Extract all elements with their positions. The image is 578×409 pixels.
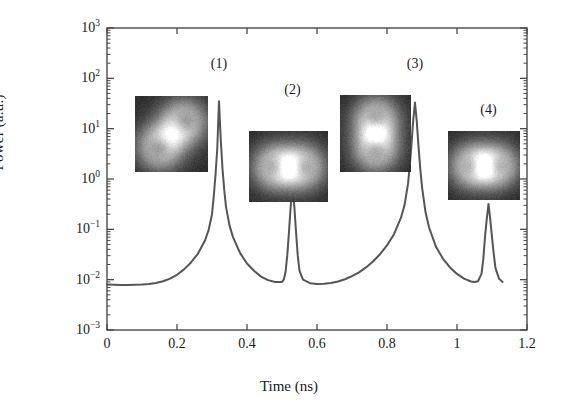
y-tick-label: 100 [42,171,100,187]
mode-image-4 [448,131,520,200]
mode-image-4-canvas [448,131,520,200]
x-tick-label: 0.4 [217,336,277,352]
mode-image-2 [249,131,328,202]
peak-label-2: (2) [268,82,318,98]
peak-label-1: (1) [194,56,244,72]
mode-image-2-canvas [249,131,328,202]
figure-container: Power (a.u.) Time (ns) 10310210110010−11… [0,0,578,409]
mode-image-1-canvas [135,96,208,172]
y-tick-label: 10−2 [42,272,100,288]
y-tick-label: 101 [42,121,100,137]
x-axis-label: Time (ns) [0,378,578,395]
x-tick-label: 0 [77,336,137,352]
x-tick-label: 0.8 [357,336,417,352]
peak-label-3: (3) [390,56,440,72]
x-tick-label: 1 [427,336,487,352]
peak-label-4: (4) [464,102,514,118]
x-tick-label: 0.6 [287,336,347,352]
mode-image-1 [135,96,208,172]
y-tick-label: 103 [42,20,100,36]
mode-image-3-canvas [340,95,411,172]
y-tick-label: 102 [42,70,100,86]
x-tick-label: 1.2 [497,336,557,352]
mode-image-3 [340,95,411,172]
y-tick-label: 10−1 [42,221,100,237]
y-axis-label: Power (a.u.) [0,94,7,170]
x-tick-label: 0.2 [147,336,207,352]
